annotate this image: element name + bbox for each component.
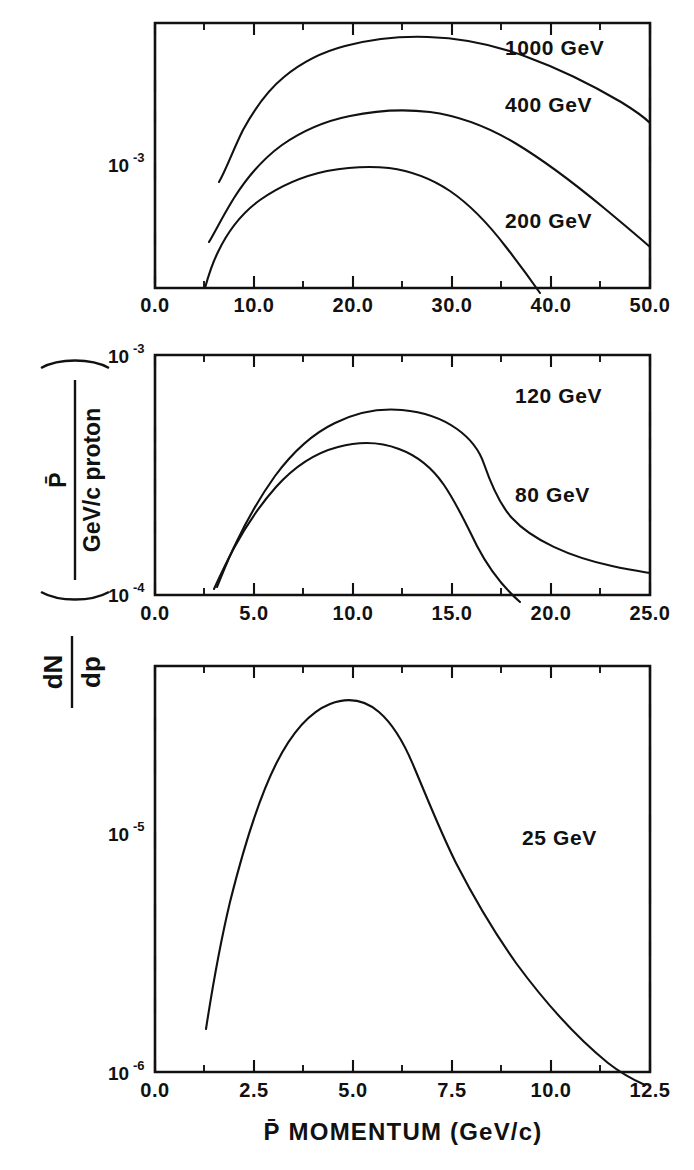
svg-text:-3: -3 [133, 150, 145, 165]
left-paren [41, 592, 109, 600]
label-200gev: 200 GeV [505, 209, 592, 232]
top-xtick-4: 40.0 [531, 294, 572, 316]
top-xtick-0: 0.0 [140, 294, 169, 316]
label-25gev: 25 GeV [522, 826, 597, 849]
bottom-ytick-label-1e-5: 10 -5 [108, 819, 145, 845]
bottom-panel-frame [155, 666, 650, 1072]
top-xtick-2: 20.0 [333, 294, 374, 316]
panel-middle: 120 GeV 80 GeV 10 -3 10 -4 0.0 5.0 10.0 … [108, 341, 670, 624]
middle-ytick-label-1e-3: 10 -3 [108, 341, 145, 367]
curve-25gev [206, 700, 645, 1085]
bottom-xtick-4: 10.0 [531, 1079, 572, 1101]
top-ytick-label-1e-3: 10 -3 [108, 150, 145, 176]
bottom-xtick-0: 0.0 [140, 1079, 169, 1101]
right-paren [41, 361, 109, 369]
svg-text:-6: -6 [133, 1058, 145, 1073]
y-title-denominator: dp [76, 656, 106, 688]
svg-text:-5: -5 [133, 819, 145, 834]
middle-xtick-0: 0.0 [140, 602, 169, 624]
svg-text:10: 10 [108, 824, 129, 845]
plot-svg: 1000 GeV 400 GeV 200 GeV 10 -3 0.0 10.0 … [0, 0, 694, 1170]
svg-text:10: 10 [108, 585, 129, 606]
top-xtick-3: 30.0 [432, 294, 473, 316]
label-120gev: 120 GeV [515, 384, 602, 407]
panel-bottom: 25 GeV 10 -5 10 -6 0.0 2.5 5.0 7.5 10.0 … [108, 666, 670, 1101]
svg-text:-3: -3 [133, 341, 145, 356]
label-400gev: 400 GeV [505, 93, 592, 116]
svg-text:10: 10 [108, 155, 129, 176]
bottom-xtick-1: 2.5 [239, 1079, 268, 1101]
y-title-numerator: dN [38, 655, 68, 690]
middle-xtick-1: 5.0 [239, 602, 268, 624]
y-units-denominator: GeV/c proton [79, 408, 105, 552]
middle-xtick-4: 20.0 [531, 602, 572, 624]
middle-xtick-3: 15.0 [432, 602, 473, 624]
top-xtick-1: 10.0 [234, 294, 275, 316]
top-panel-frame [155, 23, 650, 288]
figure-container: 1000 GeV 400 GeV 200 GeV 10 -3 0.0 10.0 … [0, 0, 694, 1170]
curve-200gev [205, 167, 540, 293]
x-axis-title-group: P̄ MOMENTUM (GeV/c) [264, 1118, 543, 1145]
bottom-y-ticks [155, 681, 650, 1057]
y-axis-units-group: P̄ GeV/c proton [41, 361, 109, 600]
svg-text:-4: -4 [133, 580, 145, 595]
svg-text:10: 10 [108, 346, 129, 367]
y-axis-title-group: dN dp [38, 636, 106, 708]
svg-text:10: 10 [108, 1063, 129, 1084]
top-x-major-ticks [155, 23, 650, 288]
y-units-numerator: P̄ [45, 472, 71, 487]
bottom-ytick-label-1e-6: 10 -6 [108, 1058, 145, 1084]
top-xtick-5: 50.0 [630, 294, 671, 316]
bottom-xtick-5: 12.5 [630, 1079, 671, 1101]
curve-80gev [214, 443, 520, 602]
bottom-x-minor-ticks [204, 666, 600, 1072]
middle-xtick-5: 25.0 [630, 602, 671, 624]
x-axis-title: P̄ MOMENTUM (GeV/c) [264, 1118, 543, 1145]
label-1000gev: 1000 GeV [505, 36, 604, 59]
panel-top: 1000 GeV 400 GeV 200 GeV 10 -3 0.0 10.0 … [108, 23, 670, 316]
label-80gev: 80 GeV [515, 483, 590, 506]
bottom-xtick-3: 7.5 [437, 1079, 466, 1101]
bottom-xtick-2: 5.0 [338, 1079, 367, 1101]
middle-xtick-2: 10.0 [333, 602, 374, 624]
bottom-x-major-ticks [155, 666, 650, 1072]
